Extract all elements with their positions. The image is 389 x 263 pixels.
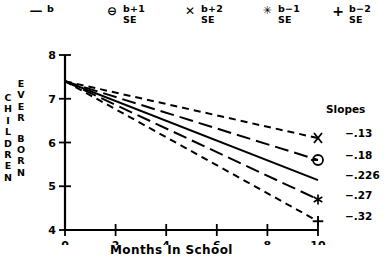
slope-value: −.226: [345, 169, 380, 181]
asterisk-marker: ✳: [259, 4, 275, 18]
legend-item-label: b+2 SE: [201, 4, 223, 25]
series-line-b: [65, 81, 318, 180]
legend-label-line2: SE: [201, 15, 223, 26]
y-tick-label: 4: [48, 224, 56, 237]
circle-minus-marker: [311, 155, 323, 165]
data-series-group: [65, 81, 318, 221]
plot-area: 8 7 6 5 4 0 2 4 6 8 10: [0, 40, 389, 245]
plus-marker: [313, 216, 324, 227]
legend-item-b-minus-1se: ✳ b−1 SE: [259, 4, 300, 25]
y-tick-labels: 8 7 6 5 4: [48, 49, 56, 237]
slope-value: −.18: [345, 149, 372, 161]
asterisk-marker: [314, 194, 323, 204]
legend-label-line2: SE: [278, 15, 300, 26]
y-tick-label: 5: [48, 180, 56, 193]
legend-item-b: — b: [28, 4, 54, 18]
dash-marker: —: [28, 4, 44, 18]
slopes-panel-title: Slopes: [326, 103, 365, 115]
x-axis-title: Months In School: [110, 243, 233, 257]
legend-label-line1: b: [47, 3, 54, 14]
legend: — b ⊖ b+1 SE ✕ b+2 SE ✳ b−1 SE + b−2 SE: [0, 4, 389, 34]
slope-value: −.27: [345, 189, 372, 201]
plus-marker: +: [330, 4, 346, 18]
legend-label-line2: SE: [349, 15, 371, 26]
axes: [59, 55, 318, 236]
legend-label-line1: b+2: [201, 3, 223, 14]
legend-label-line1: b−2: [349, 3, 371, 14]
series-line-b-plus-2se: [65, 81, 318, 138]
circle-minus-marker: ⊖: [104, 4, 120, 18]
legend-item-label: b: [47, 4, 54, 15]
series-line-b-minus-2se: [65, 81, 318, 221]
legend-label-line2: SE: [123, 15, 145, 26]
legend-item-label: b+1 SE: [123, 4, 145, 25]
x-cross-marker: ✕: [182, 4, 198, 18]
legend-item-b-plus-1se: ⊖ b+1 SE: [104, 4, 145, 25]
x-tick-label: 0: [61, 239, 69, 245]
legend-label-line1: b+1: [123, 3, 145, 14]
y-tick-label: 8: [48, 49, 56, 62]
legend-item-b-minus-2se: + b−2 SE: [330, 4, 371, 25]
legend-item-b-plus-2se: ✕ b+2 SE: [182, 4, 223, 25]
legend-item-label: b−1 SE: [278, 4, 300, 25]
legend-item-label: b−2 SE: [349, 4, 371, 25]
slope-value: −.13: [345, 127, 372, 139]
series-line-b-minus-1se: [65, 81, 318, 199]
x-tick-label: 10: [310, 239, 326, 245]
slope-value: −.32: [345, 210, 372, 222]
legend-label-line1: b−1: [278, 3, 300, 14]
series-line-b-plus-1se: [65, 81, 318, 160]
y-tick-label: 7: [48, 93, 56, 106]
x-tick-label: 8: [264, 239, 272, 245]
y-tick-label: 6: [48, 137, 56, 150]
chart-svg: 8 7 6 5 4 0 2 4 6 8 10: [0, 40, 389, 245]
